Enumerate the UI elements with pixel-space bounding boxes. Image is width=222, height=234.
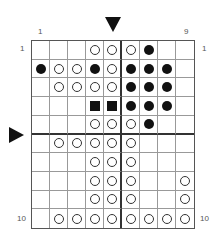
board-cell[interactable] [68, 97, 86, 116]
board-cell[interactable] [104, 41, 122, 60]
board-cell[interactable] [86, 97, 104, 116]
board-cell[interactable] [176, 78, 194, 97]
board-cell[interactable] [140, 60, 158, 79]
board-cell[interactable] [122, 172, 140, 191]
white-stone-icon [126, 176, 136, 186]
board-cell[interactable] [50, 135, 68, 154]
board-cell[interactable] [104, 78, 122, 97]
board-cell[interactable] [140, 191, 158, 210]
board-cell[interactable] [86, 153, 104, 172]
board-cell[interactable] [104, 172, 122, 191]
board-cell[interactable] [140, 172, 158, 191]
board-cell[interactable] [104, 209, 122, 228]
board-cell[interactable] [68, 153, 86, 172]
board-cell[interactable] [32, 135, 50, 154]
board-cell[interactable] [50, 116, 68, 135]
board-cell[interactable] [50, 209, 68, 228]
board-cell[interactable] [122, 135, 140, 154]
board-cell[interactable] [68, 172, 86, 191]
board-cell[interactable] [50, 41, 68, 60]
board-cell[interactable] [122, 153, 140, 172]
board-cell[interactable] [158, 78, 176, 97]
board-cell[interactable] [32, 97, 50, 116]
board-cell[interactable] [68, 78, 86, 97]
board-cell[interactable] [122, 97, 140, 116]
board-cell[interactable] [86, 60, 104, 79]
board-cell[interactable] [122, 78, 140, 97]
board-cell[interactable] [32, 78, 50, 97]
board-cell[interactable] [32, 191, 50, 210]
board-cell[interactable] [176, 191, 194, 210]
board-cell[interactable] [158, 60, 176, 79]
board-cell[interactable] [176, 135, 194, 154]
board-cell[interactable] [50, 191, 68, 210]
row-label-first-left: 1 [20, 45, 24, 53]
board-cell[interactable] [140, 78, 158, 97]
board-cell[interactable] [50, 60, 68, 79]
white-stone-icon [72, 138, 82, 148]
board-cell[interactable] [68, 116, 86, 135]
board-cell[interactable] [140, 41, 158, 60]
board-cell[interactable] [68, 191, 86, 210]
board-cell[interactable] [176, 209, 194, 228]
board-cell[interactable] [86, 78, 104, 97]
board-cell[interactable] [122, 191, 140, 210]
black-stone-icon [90, 64, 100, 74]
board-cell[interactable] [32, 116, 50, 135]
board-cell[interactable] [122, 60, 140, 79]
board-cell[interactable] [140, 153, 158, 172]
board-cell[interactable] [50, 78, 68, 97]
white-stone-icon [90, 157, 100, 167]
board-cell[interactable] [68, 41, 86, 60]
board-cell[interactable] [176, 97, 194, 116]
board-cell[interactable] [176, 116, 194, 135]
board-cell[interactable] [176, 153, 194, 172]
board-cell[interactable] [158, 116, 176, 135]
board-cell[interactable] [140, 209, 158, 228]
board-cell[interactable] [158, 209, 176, 228]
board-cell[interactable] [86, 191, 104, 210]
board-cell[interactable] [104, 60, 122, 79]
white-stone-icon [107, 82, 117, 92]
board-cell[interactable] [158, 97, 176, 116]
board-cell[interactable] [104, 153, 122, 172]
board-cell[interactable] [158, 153, 176, 172]
board-cell[interactable] [32, 60, 50, 79]
board-cell[interactable] [50, 172, 68, 191]
board-cell[interactable] [86, 172, 104, 191]
board-cell[interactable] [104, 191, 122, 210]
board-cell[interactable] [32, 153, 50, 172]
black-stone-icon [144, 119, 154, 129]
board-cell[interactable] [32, 172, 50, 191]
board-cell[interactable] [104, 135, 122, 154]
board-cell[interactable] [158, 191, 176, 210]
board-cell[interactable] [32, 41, 50, 60]
board-cell[interactable] [140, 135, 158, 154]
board-cell[interactable] [158, 172, 176, 191]
board-cell[interactable] [68, 60, 86, 79]
board-cell[interactable] [176, 41, 194, 60]
white-stone-icon [180, 214, 190, 224]
board-cell[interactable] [140, 116, 158, 135]
board-cell[interactable] [86, 209, 104, 228]
white-stone-icon [90, 194, 100, 204]
board-cell[interactable] [176, 60, 194, 79]
board-cell[interactable] [122, 41, 140, 60]
board-cell[interactable] [86, 116, 104, 135]
board-cell[interactable] [176, 172, 194, 191]
board-cell[interactable] [122, 116, 140, 135]
board-cell[interactable] [158, 135, 176, 154]
board-cell[interactable] [158, 41, 176, 60]
white-stone-icon [126, 138, 136, 148]
board-cell[interactable] [86, 41, 104, 60]
board-cell[interactable] [32, 209, 50, 228]
board-cell[interactable] [104, 97, 122, 116]
board-cell[interactable] [140, 97, 158, 116]
board-cell[interactable] [50, 153, 68, 172]
board-cell[interactable] [104, 116, 122, 135]
board-cell[interactable] [68, 135, 86, 154]
board-cell[interactable] [122, 209, 140, 228]
board-cell[interactable] [86, 135, 104, 154]
board-cell[interactable] [68, 209, 86, 228]
board-cell[interactable] [50, 97, 68, 116]
